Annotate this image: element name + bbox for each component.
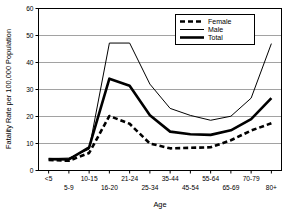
chart-legend[interactable]: FemaleMaleTotal <box>176 15 255 45</box>
x-axis-title: Age <box>153 200 166 209</box>
x-category-label: <5 <box>45 175 53 182</box>
y-tick-label: 40 <box>26 59 34 66</box>
x-category-label: 25-34 <box>141 184 158 191</box>
x-category-label: 16-20 <box>101 184 118 191</box>
y-tick-label: 50 <box>26 32 34 39</box>
y-tick-label: 60 <box>26 5 34 12</box>
y-axis-title: Fatality Rate per 100,000 Population <box>4 29 13 149</box>
y-tick-label: 20 <box>26 113 34 120</box>
x-category-label: 45-54 <box>182 184 199 191</box>
x-category-label: 70-79 <box>243 175 260 182</box>
x-category-label: 10-15 <box>81 175 98 182</box>
x-category-label: 21-24 <box>121 175 138 182</box>
fatality-rate-line-chart: 0102030405060 <55-910-1516-2021-2425-343… <box>0 0 293 216</box>
x-category-label: 80+ <box>266 184 277 191</box>
y-tick-label: 30 <box>26 86 34 93</box>
legend-label-total: Total <box>208 34 223 41</box>
x-category-label: 65-69 <box>222 184 239 191</box>
legend-label-male: Male <box>208 26 223 33</box>
x-category-label: 55-64 <box>202 175 219 182</box>
y-tick-label: 0 <box>30 167 34 174</box>
y-tick-label: 10 <box>26 140 34 147</box>
legend-label-female: Female <box>208 18 231 25</box>
chart-figure: 0102030405060 <55-910-1516-2021-2425-343… <box>0 0 293 216</box>
x-category-label: 5-9 <box>64 184 74 191</box>
x-category-label: 35-44 <box>162 175 179 182</box>
